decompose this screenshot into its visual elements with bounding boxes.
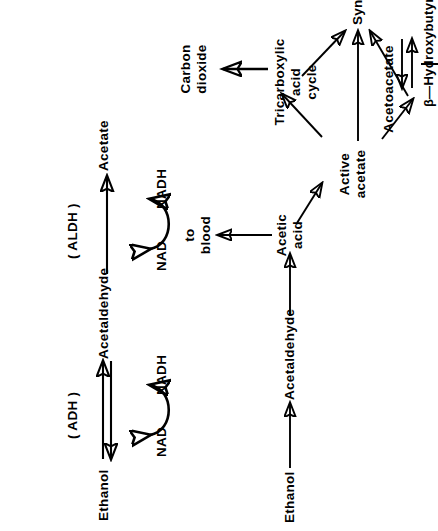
node-acetaldehyde-bottom: Acetaldehyde [283, 309, 297, 400]
enzyme-label-adh: ( ADH ) [66, 392, 80, 439]
label-to-blood-top: to blood [182, 216, 214, 254]
cofactor-nadh-aldh: NADH [155, 169, 169, 209]
cofactor-nad-adh: NAD [155, 427, 169, 457]
active-acetate-line-1: Active [337, 150, 353, 199]
cofactor-nad-aldh: NAD [155, 241, 169, 271]
tca-line-1: Tricarboxylic [272, 38, 288, 125]
node-synthesis: Synthesis [351, 0, 365, 25]
arrow-ethanol-acetaldehyde [103, 361, 111, 459]
to-blood-top-line-2: blood [198, 216, 214, 254]
node-acetate-top: Acetate [97, 120, 111, 171]
arrow-layer [0, 0, 438, 531]
arrow-acetoacetate-hydroxybutyrate [402, 39, 412, 88]
pathway-figure: Ethanol Acetaldehyde Acetate ( ADH ) ( A… [0, 0, 438, 531]
node-active-acetate: Active acetate [337, 150, 369, 199]
to-blood-top-line-1: to [182, 216, 198, 254]
node-hydroxybutyric-acid: β—Hydroxybutyric acid [422, 0, 436, 107]
node-tricarboxylic-acid-cycle: Tricarboxylic acid cycle [272, 38, 320, 125]
node-acetoacetate: Acetoacetate [382, 45, 396, 133]
active-acetate-line-2: acetate [353, 150, 369, 199]
enzyme-label-aldh: ( ALDH ) [66, 203, 80, 259]
carbon-dioxide-line-2: dioxide [194, 44, 210, 93]
acetic-acid-line-1: Acetic [274, 214, 290, 256]
node-ethanol-top: Ethanol [97, 469, 111, 521]
tca-line-2: acid [288, 38, 304, 125]
node-ethanol-bottom: Ethanol [283, 471, 297, 523]
carbon-dioxide-line-1: Carbon [178, 44, 194, 93]
node-acetaldehyde-top: Acetaldehyde [97, 268, 111, 359]
cofactor-nadh-adh: NADH [155, 355, 169, 395]
tca-line-3: cycle [304, 38, 320, 125]
node-carbon-dioxide: Carbon dioxide [178, 44, 210, 93]
node-acetic-acid: Acetic acid [274, 214, 306, 256]
acetic-acid-line-2: acid [290, 214, 306, 256]
